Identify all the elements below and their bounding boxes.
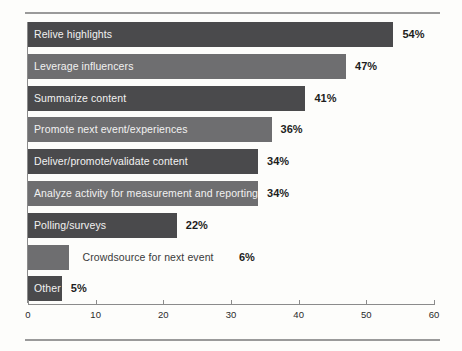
x-axis-tick-label: 0 (25, 309, 30, 320)
bar-category-label: Other (34, 276, 61, 301)
bar (28, 245, 69, 270)
bar-value-label: 5% (71, 276, 87, 301)
bar-row: Analyze activity for measurement and rep… (28, 181, 434, 206)
bar-category-label: Promote next event/experiences (34, 117, 188, 142)
bar-category-label: Crowdsource for next event (83, 245, 214, 270)
bar-row: Other5% (28, 276, 434, 301)
bar-category-label: Leverage influencers (34, 54, 133, 79)
bar-row: Leverage influencers47% (28, 54, 434, 79)
plot-area: Relive highlights54%Leverage influencers… (0, 22, 462, 304)
x-axis-tick-label: 50 (361, 309, 372, 320)
bar-category-label: Relive highlights (34, 22, 112, 47)
bar-row: Summarize content41% (28, 86, 434, 111)
bar-category-label: Deliver/promote/validate content (34, 149, 188, 174)
x-axis-tick-label: 60 (429, 309, 440, 320)
x-axis-tick-label: 10 (90, 309, 101, 320)
bar-value-label: 22% (186, 213, 208, 238)
bar-row: Crowdsource for next event6% (28, 245, 434, 270)
bar-category-label: Summarize content (34, 86, 126, 111)
bar-category-label: Analyze activity for measurement and rep… (34, 181, 258, 206)
x-axis-tick (231, 300, 232, 305)
bar-value-label: 34% (267, 149, 289, 174)
bar-row: Polling/surveys22% (28, 213, 434, 238)
bar-value-label: 47% (355, 54, 377, 79)
x-axis-tick-label: 30 (226, 309, 237, 320)
bar-value-label: 34% (267, 181, 289, 206)
bar-value-label: 41% (314, 86, 336, 111)
bottom-divider-rule (25, 339, 440, 341)
bar-value-label: 54% (402, 22, 424, 47)
bar-row: Relive highlights54% (28, 22, 434, 47)
x-axis-tick (434, 300, 435, 305)
x-axis-tick-label: 20 (158, 309, 169, 320)
bar-row: Promote next event/experiences36% (28, 117, 434, 142)
top-divider-rule (25, 12, 440, 14)
x-axis-tick (366, 300, 367, 305)
bar-category-label: Polling/surveys (34, 213, 106, 238)
bar-row: Deliver/promote/validate content34% (28, 149, 434, 174)
x-axis-tick (299, 300, 300, 305)
x-axis-tick (163, 300, 164, 305)
x-axis-tick (28, 300, 29, 305)
bar-chart-figure: Relive highlights54%Leverage influencers… (0, 0, 462, 351)
bar-value-label: 6% (239, 245, 255, 270)
x-axis-tick (96, 300, 97, 305)
x-axis: 0102030405060 (0, 304, 462, 334)
bar-value-label: 36% (281, 117, 303, 142)
x-axis-tick-label: 40 (293, 309, 304, 320)
